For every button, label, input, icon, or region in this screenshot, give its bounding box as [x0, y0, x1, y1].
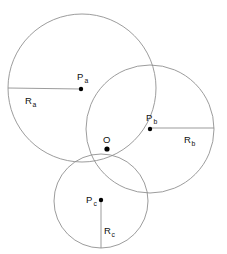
label-center-c: P	[86, 194, 92, 205]
label-radius-b: R	[184, 134, 191, 145]
center-point-b-dot	[148, 127, 152, 131]
label-intersection-o: O	[103, 134, 110, 145]
label-radius-c-subscript: c	[112, 231, 116, 238]
label-center-b: P	[146, 112, 152, 123]
label-center-c-subscript: c	[94, 200, 98, 207]
label-center-a-subscript: a	[85, 77, 89, 84]
label-center-b-subscript: b	[154, 118, 158, 125]
label-radius-b-subscript: b	[192, 140, 196, 147]
center-point-a-dot	[79, 87, 83, 91]
intersection-point-o-dot	[104, 146, 109, 151]
label-center-a: P	[77, 71, 83, 82]
geometry-diagram: P a R a P b R b P c R c O	[0, 0, 227, 254]
label-radius-a: R	[25, 95, 32, 106]
diagram-canvas: P a R a P b R b P c R c O	[0, 0, 227, 254]
label-radius-a-subscript: a	[33, 101, 37, 108]
label-radius-c: R	[104, 225, 111, 236]
center-point-c-dot	[99, 198, 103, 202]
radius-line-a	[8, 88, 81, 89]
